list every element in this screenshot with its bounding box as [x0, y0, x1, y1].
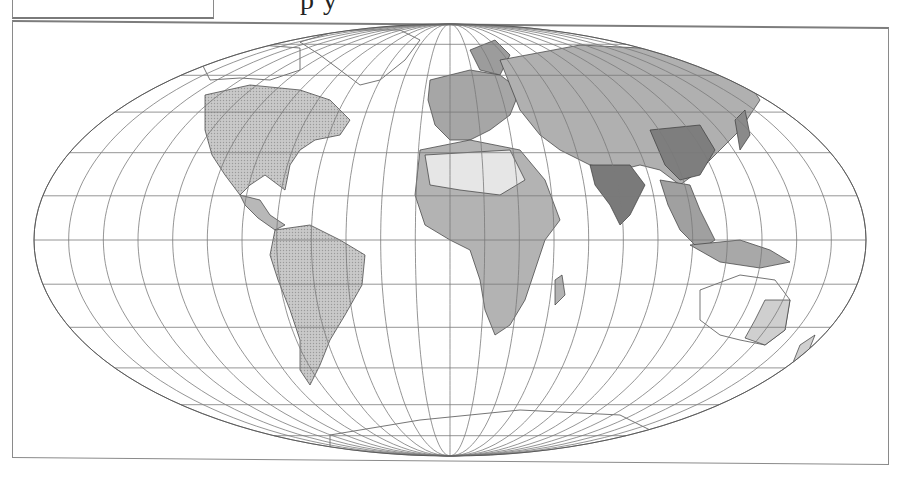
region-madagascar — [555, 275, 565, 305]
region-north-america — [205, 85, 350, 195]
region-new-zealand — [790, 335, 815, 370]
landmasses — [200, 30, 815, 458]
region-indonesia — [690, 240, 790, 268]
region-asia — [500, 45, 760, 185]
region-southeast-asia — [660, 180, 715, 250]
region-greenland — [300, 30, 420, 85]
world-map — [0, 0, 910, 490]
region-south-asia — [590, 165, 645, 225]
region-europe — [428, 70, 520, 140]
